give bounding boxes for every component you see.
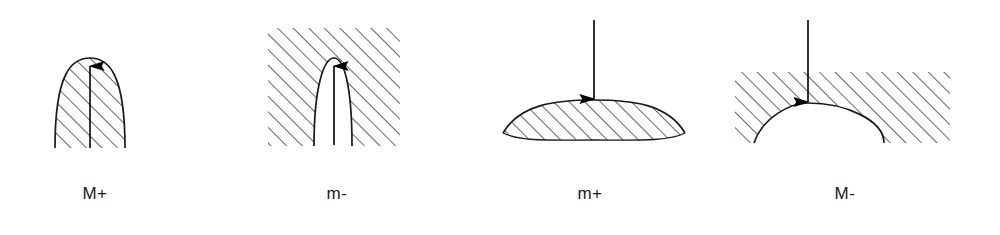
figure-M-plus: [50, 50, 135, 155]
figure-m-minus: [262, 22, 407, 152]
figure-M-minus: [730, 20, 955, 150]
figures-svg: [0, 0, 1000, 235]
figure-m-plus: [498, 20, 690, 147]
curvature-figure-board: M+ m- m+ M-: [0, 0, 1000, 235]
